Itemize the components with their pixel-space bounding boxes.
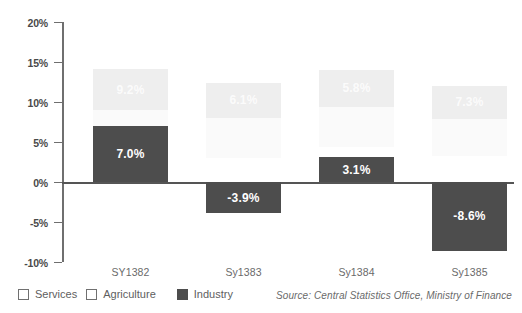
bar-value-label: -8.6% [453,209,485,223]
bar-value-label: 5.8% [342,81,370,95]
bar-services[interactable]: 5.8% [319,70,394,107]
legend-label: Agriculture [103,288,156,300]
legend-item-services[interactable]: Services [18,288,77,300]
bar-industry[interactable]: -3.9% [206,182,281,213]
chart-legend: ServicesAgricultureIndustry [18,288,233,300]
legend-label: Industry [194,288,233,300]
x-axis-label: Sy1385 [412,266,522,278]
bar-services[interactable]: 7.3% [432,86,507,119]
bar-chart: 20%15%10%5%0%-5%-10% 9.2%7.0%6.1%-3.9%5.… [0,0,522,313]
bar-value-label: 9.2% [116,83,144,97]
bar-value-label: 7.3% [455,95,483,109]
y-tick-label: -5% [30,217,48,229]
bar-group: 9.2%7.0% [93,22,168,262]
y-tick: -5% [54,222,62,223]
bar-value-label: 6.1% [229,93,257,107]
bar-agriculture[interactable] [206,118,281,158]
bar-industry[interactable]: -8.6% [432,182,507,251]
x-axis-label: SY1382 [73,266,188,278]
bar-industry[interactable]: 7.0% [93,126,168,182]
bar-services[interactable]: 9.2% [93,69,168,110]
bar-group: 6.1%-3.9% [206,22,281,262]
y-axis-spine [62,22,64,262]
bar-value-label: -3.9% [227,191,259,205]
legend-swatch-icon [86,289,97,300]
y-tick: 15% [54,62,62,63]
bar-agriculture[interactable] [319,107,394,147]
y-tick: -10% [54,262,62,263]
y-tick-label: 15% [28,57,48,69]
legend-item-industry[interactable]: Industry [177,288,233,300]
bar-agriculture[interactable] [432,119,507,157]
legend-swatch-icon [177,289,188,300]
y-tick: 10% [54,102,62,103]
y-tick-label: 5% [33,137,48,149]
bar-industry[interactable]: 3.1% [319,157,394,182]
y-tick-label: 10% [28,97,48,109]
y-tick-label: -10% [24,257,48,269]
bar-services[interactable]: 6.1% [206,83,281,118]
legend-label: Services [35,288,77,300]
y-tick: 20% [54,22,62,23]
y-tick-label: 0% [33,177,48,189]
source-note: Source: Central Statistics Office, Minis… [276,290,512,301]
legend-item-agriculture[interactable]: Agriculture [86,288,156,300]
y-tick-label: 20% [28,17,48,29]
bar-group: 7.3%-8.6% [432,22,507,262]
x-axis-label: Sy1383 [186,266,301,278]
bar-group: 5.8%3.1% [319,22,394,262]
plot-area: 20%15%10%5%0%-5%-10% 9.2%7.0%6.1%-3.9%5.… [62,22,514,262]
y-tick: 0% [54,182,62,183]
legend-swatch-icon [18,289,29,300]
bar-value-label: 3.1% [342,163,370,177]
bar-value-label: 7.0% [116,147,144,161]
y-tick: 5% [54,142,62,143]
x-axis-label: Sy1384 [299,266,414,278]
